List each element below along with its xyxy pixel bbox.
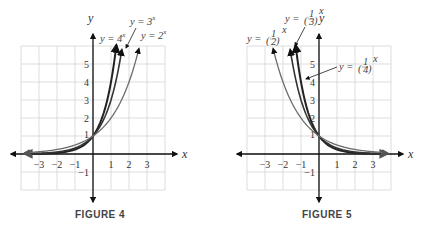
curves [273,45,387,154]
figure-5-chart: −3−2−1123−112345 y x y = ( 1 2 ) x y = (… [237,5,414,220]
y-tick-label: −1 [78,167,89,178]
x-tick-label: −2 [52,159,63,170]
tick-labels: −3−2−1123−112345 [260,59,376,178]
y-tick-label: −1 [304,167,315,178]
svg-text:x: x [372,53,378,64]
x-tick-label: 1 [109,159,114,170]
y-tick-label: 5 [310,59,315,70]
svg-text:x: x [318,5,324,16]
leader-3x [126,28,136,48]
svg-text:x: x [281,24,287,35]
x-tick-label: 3 [145,159,150,170]
leader-third-x [295,27,305,46]
x-tick-label: 3 [371,159,376,170]
svg-text:): ) [275,35,280,47]
y-tick-label: 4 [84,77,89,88]
y-tick-label: 5 [84,59,89,70]
figure-5-caption: FIGURE 5 [302,209,352,220]
label-2x: y = 2x [140,28,167,41]
x-tick-label: −3 [260,159,271,170]
tick-labels: −3−2−1123−112345 [34,59,150,178]
x-tick-label: 1 [335,159,340,170]
svg-text:y =: y = [246,33,261,44]
label-third-x: y = ( 1 3 ) x [284,5,324,27]
x-axis-label: x [181,147,188,161]
svg-text:y =: y = [338,61,353,72]
svg-text:): ) [313,15,318,27]
y-tick-label: 3 [310,95,315,106]
svg-text:): ) [367,63,372,75]
x-tick-label: −2 [278,159,289,170]
y-tick-label: 4 [310,77,315,88]
x-axis-label: x [407,147,414,161]
y-axis-label: y [87,11,94,25]
label-4x: y = 4x [99,31,126,44]
svg-text:y =: y = [284,13,299,24]
figure-4-chart: −3−2−1123−112345 y x y = 4x y = 3x y = 2… [11,11,188,220]
x-tick-label: 2 [127,159,132,170]
x-tick-label: −3 [34,159,45,170]
y-tick-label: 2 [84,113,89,124]
curve-y-4-x [25,45,117,154]
label-half-x: y = ( 1 2 ) x [246,24,287,47]
label-3x: y = 3x [129,14,156,27]
y-tick-label: 3 [84,95,89,106]
figures-canvas: −3−2−1123−112345 y x y = 4x y = 3x y = 2… [0,0,425,232]
figure-4-caption: FIGURE 4 [75,209,125,220]
curves [25,45,139,154]
x-tick-label: 2 [353,159,358,170]
